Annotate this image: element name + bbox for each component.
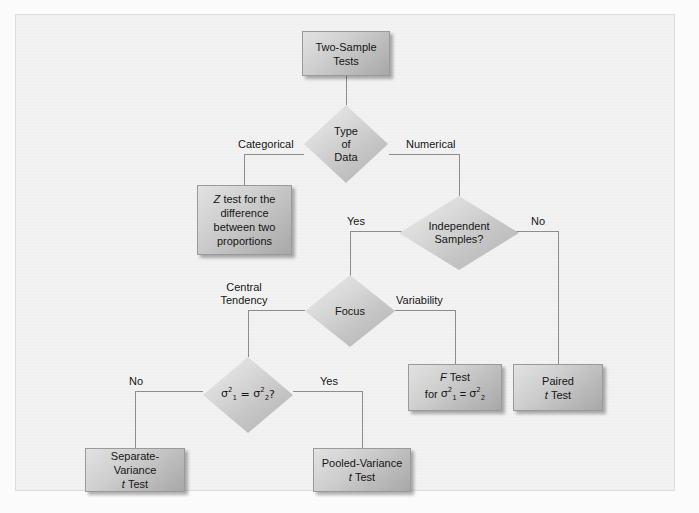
- connector-variance-yes-v: [362, 391, 363, 448]
- edge-label-central-tendency: Central Tendency: [220, 281, 267, 307]
- sigma-1-symbol: σ21: [221, 387, 237, 400]
- connector-type-to-ztest-h: [244, 154, 304, 155]
- connector-root-to-type: [346, 76, 347, 105]
- node-f-test-italic-f: F: [440, 371, 447, 383]
- node-z-test-line3: between two: [214, 221, 276, 233]
- edge-label-no-variance: No: [129, 375, 143, 388]
- node-separate-variance-label: Separate-Variance t Test: [86, 449, 184, 491]
- node-variance-equal-label: σ21 = σ22?: [221, 385, 275, 406]
- edge-label-categorical: Categorical: [238, 138, 294, 151]
- edge-label-numerical: Numerical: [406, 138, 456, 151]
- edge-label-variability: Variability: [396, 294, 443, 307]
- node-type-of-data-line1: Type: [334, 125, 358, 138]
- sigma-2-symbol: σ22: [253, 387, 269, 400]
- node-separate-variance-line1: Separate-Variance: [111, 450, 159, 476]
- edge-label-no-independent: No: [531, 215, 545, 228]
- edge-label-yes-independent: Yes: [347, 215, 365, 228]
- node-type-of-data-line2: of: [334, 138, 358, 151]
- node-pooled-variance-label: Pooled-Variance t Test: [318, 456, 407, 484]
- node-focus[interactable]: Focus: [305, 275, 395, 347]
- node-pooled-variance-line1: Pooled-Variance: [322, 457, 403, 469]
- node-two-sample-tests[interactable]: Two-Sample Tests: [302, 31, 390, 76]
- sigma-1-symbol: σ21: [441, 387, 457, 400]
- node-independent-samples-line1: Independent: [428, 220, 489, 233]
- connector-focus-central-h: [248, 310, 305, 311]
- node-f-test-label: F Test for σ21 = σ22: [421, 370, 489, 406]
- node-variance-equal[interactable]: σ21 = σ22?: [203, 357, 293, 433]
- equals-symbol: =: [240, 387, 253, 400]
- node-paired-t-test-line1: Paired: [542, 375, 574, 387]
- node-independent-samples-label: Independent Samples?: [428, 220, 489, 246]
- sigma-2-symbol: σ22: [469, 387, 485, 400]
- connector-focus-variability-h: [395, 310, 455, 311]
- connector-focus-variability-v: [455, 310, 456, 364]
- connector-variance-no-h: [135, 391, 203, 392]
- node-z-test-line2: difference: [220, 207, 268, 219]
- node-z-test-line1-rest: test for the: [220, 193, 275, 205]
- node-independent-samples[interactable]: Independent Samples?: [399, 196, 519, 270]
- connector-focus-central-v: [248, 310, 249, 357]
- connector-indep-no-v: [558, 231, 559, 364]
- question-mark: ?: [269, 387, 275, 400]
- node-type-of-data-line3: Data: [334, 151, 358, 164]
- node-f-test[interactable]: F Test for σ21 = σ22: [408, 364, 502, 411]
- node-type-of-data-label: Type of Data: [334, 125, 358, 164]
- connector-type-to-indep-v: [459, 154, 460, 196]
- node-separate-variance-t-test[interactable]: Separate-Variance t Test: [85, 448, 185, 492]
- edge-label-central-tendency-line2: Tendency: [220, 294, 267, 307]
- connector-indep-yes-v: [350, 231, 351, 276]
- flowchart-canvas: Two-Sample Tests Type of Data Categorica…: [0, 0, 699, 513]
- edge-label-yes-variance: Yes: [320, 375, 338, 388]
- node-paired-t-test-label: Paired t Test: [538, 374, 578, 402]
- connector-type-to-indep-h: [389, 154, 459, 155]
- edge-label-central-tendency-line1: Central: [220, 281, 267, 294]
- node-z-test-line4: proportions: [217, 235, 272, 247]
- node-paired-t-test[interactable]: Paired t Test: [513, 364, 603, 411]
- connector-variance-no-v: [135, 391, 136, 448]
- connector-variance-yes-h: [293, 391, 362, 392]
- node-pooled-variance-t-test[interactable]: Pooled-Variance t Test: [313, 448, 411, 492]
- node-f-test-word-test: Test: [447, 371, 470, 383]
- node-two-sample-tests-label: Two-Sample Tests: [303, 40, 389, 68]
- diagram-frame: [15, 14, 675, 491]
- node-f-test-for-word: for: [425, 387, 441, 399]
- node-type-of-data[interactable]: Type of Data: [304, 105, 388, 183]
- node-z-test-label: Z test for the difference between two pr…: [210, 192, 280, 248]
- connector-type-to-ztest-v: [244, 154, 245, 185]
- node-paired-t-test-word-test: Test: [548, 389, 571, 401]
- node-pooled-variance-word-test: Test: [352, 471, 375, 483]
- node-z-test[interactable]: Z test for the difference between two pr…: [197, 185, 292, 255]
- node-focus-label: Focus: [335, 305, 365, 318]
- equals-symbol: =: [457, 387, 470, 399]
- node-separate-variance-word-test: Test: [125, 478, 148, 490]
- node-independent-samples-line2: Samples?: [428, 233, 489, 246]
